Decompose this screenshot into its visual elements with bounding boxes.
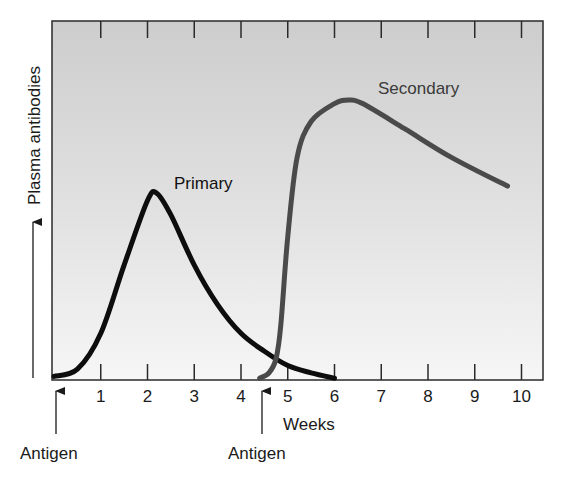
secondary-label: Secondary [378,79,460,98]
x-tick-label: 1 [96,387,105,406]
x-axis-title: Weeks [283,415,335,434]
x-tick-label: 6 [330,387,339,406]
primary-label: Primary [174,174,233,193]
x-tick-labels: 12345678910 [96,387,531,406]
x-tick-label: 7 [377,387,386,406]
x-tick-label: 2 [143,387,152,406]
y-axis-title: Plasma antibodies [25,66,44,205]
x-tick-label: 8 [423,387,432,406]
x-tick-label: 4 [236,387,245,406]
x-tick-label: 5 [283,387,292,406]
x-tick-label: 3 [190,387,199,406]
antigen-label-1: Antigen [20,444,78,463]
plot-area [52,21,543,380]
x-tick-label: 10 [512,387,531,406]
antigen-label-2: Antigen [228,444,286,463]
x-tick-label: 9 [470,387,479,406]
antibody-response-chart: 12345678910 Primary Secondary Plasma ant… [0,0,564,487]
